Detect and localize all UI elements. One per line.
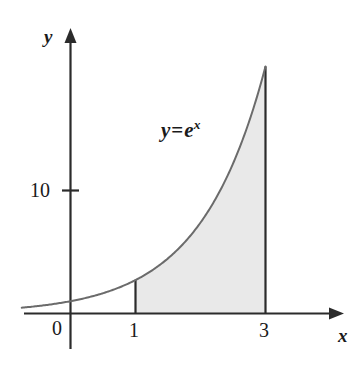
y-tick-label-10: 10: [30, 180, 50, 200]
x-tick-label-1: 1: [129, 320, 139, 340]
equation-exponent: x: [194, 117, 201, 132]
exponential-area-figure: y x 10 0 1 3 y=ex: [0, 0, 363, 369]
y-axis-label: y: [44, 27, 52, 46]
y-axis-arrowhead: [65, 28, 77, 43]
equation-lhs: y: [161, 118, 170, 142]
equation-equals: =: [170, 118, 184, 142]
plot-canvas: [0, 0, 363, 369]
x-axis-arrowhead: [329, 308, 344, 320]
x-tick-label-3: 3: [259, 320, 269, 340]
x-axis-label: x: [338, 326, 348, 345]
equation-base: e: [184, 118, 193, 142]
curve-equation-label: y=ex: [161, 118, 200, 141]
shaded-area-under-curve: [136, 66, 266, 313]
origin-label: 0: [52, 318, 62, 338]
